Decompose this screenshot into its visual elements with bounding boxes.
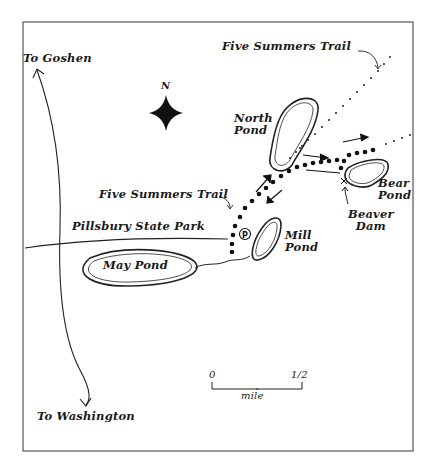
- park-boundary-line: [25, 238, 228, 248]
- north-pond-shape: [270, 98, 318, 171]
- may-pond-label: May Pond: [103, 259, 168, 271]
- svg-text:P: P: [242, 231, 248, 240]
- scale-start-label: 0: [209, 370, 216, 381]
- road-goshen-washington: [33, 69, 91, 406]
- trail-map: P To Goshen To Washington N Five Summers…: [0, 0, 437, 472]
- five-summers-trail-label-mid: Five Summers Trail: [99, 188, 228, 200]
- trail-dots-small: [289, 56, 411, 159]
- to-goshen-label: To Goshen: [23, 52, 92, 64]
- pillsbury-state-park-label: Pillsbury State Park: [72, 220, 205, 232]
- north-pond-label: North Pond: [234, 112, 273, 136]
- parking-icon: P: [240, 229, 251, 240]
- scale-unit-label: mile: [241, 391, 264, 402]
- mill-pond-label: Mill Pond: [285, 229, 318, 253]
- scale-bar: [212, 382, 302, 390]
- compass-north-star-icon: [149, 95, 183, 131]
- five-summers-trail-label-top: Five Summers Trail: [222, 40, 351, 52]
- map-canvas: P: [0, 0, 437, 472]
- to-washington-label: To Washington: [37, 410, 135, 422]
- compass-north-label: N: [161, 81, 170, 92]
- bear-pond-label: Bear Pond: [378, 177, 411, 201]
- scale-end-label: 1/2: [291, 370, 308, 381]
- beaver-dam-label: Beaver Dam: [348, 208, 394, 232]
- mill-pond-shape: [252, 218, 281, 260]
- stream: [195, 256, 250, 268]
- map-frame: [23, 22, 413, 451]
